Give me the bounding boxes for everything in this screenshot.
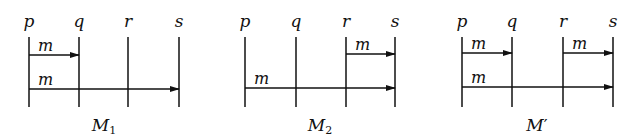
message-label: m	[38, 70, 53, 89]
message-label: m	[38, 36, 53, 55]
process-label-s: s	[609, 11, 618, 31]
message-label: m	[572, 34, 587, 53]
diagram-caption: M′	[525, 115, 547, 135]
diagram-caption: M1	[91, 115, 116, 137]
message-label: m	[355, 35, 370, 54]
diagram-2: pqrsmmM2	[240, 11, 400, 137]
diagram-3: pqrsmmmM′	[457, 11, 618, 135]
process-label-q: q	[74, 11, 85, 31]
process-label-p: p	[240, 11, 251, 31]
process-label-p: p	[457, 11, 468, 31]
message-label: m	[471, 68, 486, 87]
diagram-caption: M2	[307, 115, 332, 137]
process-label-s: s	[391, 11, 400, 31]
process-label-q: q	[507, 11, 518, 31]
diagram-1: pqrsmmM1	[24, 11, 184, 137]
process-label-s: s	[175, 11, 184, 31]
message-sequence-diagrams: pqrsmmM1pqrsmmM2pqrsmmmM′	[0, 0, 640, 140]
process-label-r: r	[124, 11, 133, 31]
process-label-r: r	[559, 11, 568, 31]
process-label-p: p	[24, 11, 35, 31]
process-label-r: r	[342, 11, 351, 31]
message-label: m	[254, 69, 269, 88]
message-label: m	[471, 34, 486, 53]
process-label-q: q	[291, 11, 302, 31]
